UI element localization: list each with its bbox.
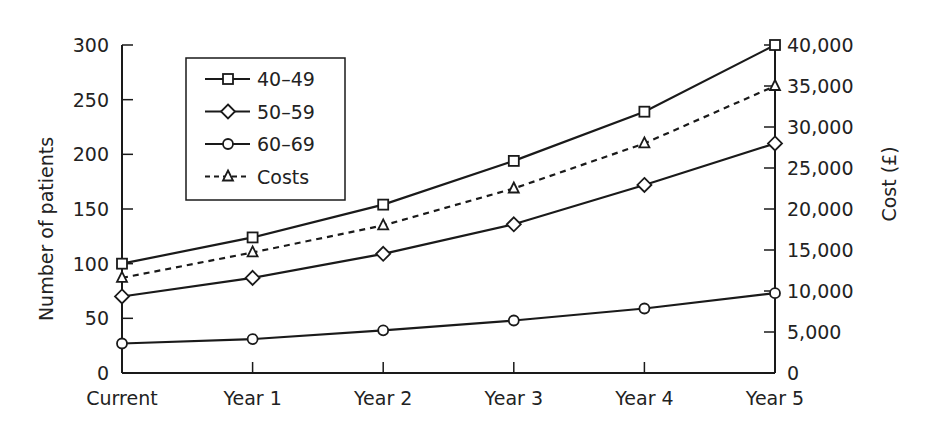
- legend: 40–4950–5960–69Costs: [186, 58, 345, 200]
- x-tick-label: Year 1: [222, 387, 281, 409]
- diamond-marker-icon: [507, 217, 521, 231]
- x-tick-label: Current: [86, 387, 157, 409]
- square-marker-icon: [509, 156, 519, 166]
- x-tick-label: Year 5: [745, 387, 804, 409]
- circle-marker-icon: [117, 338, 127, 348]
- square-marker-icon: [639, 107, 649, 117]
- y2-tick-label: 5,000: [787, 321, 841, 343]
- triangle-marker-icon: [770, 80, 780, 90]
- y2-tick-label: 15,000: [787, 239, 853, 261]
- triangle-marker-icon: [248, 246, 258, 256]
- circle-marker-icon: [639, 303, 649, 313]
- triangle-marker-icon: [117, 272, 127, 282]
- y2-tick-label: 40,000: [787, 34, 853, 56]
- triangle-marker-icon: [639, 137, 649, 147]
- y2-tick-label: 30,000: [787, 116, 853, 138]
- square-marker-icon: [378, 200, 388, 210]
- y-tick-label: 50: [85, 307, 109, 329]
- square-marker-icon: [248, 232, 258, 242]
- y-tick-label: 0: [97, 362, 109, 384]
- y2-tick-label: 35,000: [787, 75, 853, 97]
- x-tick-label: Year 3: [484, 387, 543, 409]
- triangle-marker-icon: [378, 219, 388, 229]
- diamond-marker-icon: [768, 136, 782, 150]
- legend-label: Costs: [257, 166, 309, 188]
- y-tick-label: 300: [73, 34, 109, 56]
- y-tick-label: 150: [73, 198, 109, 220]
- square-marker-icon: [117, 259, 127, 269]
- legend-label: 50–59: [257, 101, 315, 123]
- diamond-marker-icon: [637, 178, 651, 192]
- diamond-marker-icon: [376, 247, 390, 261]
- y-axis-title: Number of patients: [35, 137, 57, 321]
- line-chart: 05010015020025030005,00010,00015,00020,0…: [0, 0, 930, 437]
- diamond-marker-icon: [115, 289, 129, 303]
- square-marker-icon: [223, 74, 233, 84]
- x-tick-label: Year 4: [614, 387, 673, 409]
- y-tick-label: 250: [73, 89, 109, 111]
- circle-marker-icon: [770, 288, 780, 298]
- y-tick-label: 200: [73, 143, 109, 165]
- triangle-marker-icon: [509, 183, 519, 193]
- circle-marker-icon: [223, 139, 233, 149]
- y-tick-label: 100: [73, 253, 109, 275]
- circle-marker-icon: [509, 316, 519, 326]
- circle-marker-icon: [378, 325, 388, 335]
- circle-marker-icon: [248, 334, 258, 344]
- y2-axis-title: Cost (£): [878, 146, 900, 221]
- y2-tick-label: 20,000: [787, 198, 853, 220]
- legend-label: 40–49: [257, 68, 315, 90]
- x-tick-label: Year 2: [353, 387, 412, 409]
- square-marker-icon: [770, 40, 780, 50]
- series-60-69: [117, 288, 780, 348]
- legend-label: 60–69: [257, 133, 315, 155]
- diamond-marker-icon: [246, 271, 260, 285]
- y2-tick-label: 10,000: [787, 280, 853, 302]
- y2-tick-label: 0: [787, 362, 799, 384]
- y2-tick-label: 25,000: [787, 157, 853, 179]
